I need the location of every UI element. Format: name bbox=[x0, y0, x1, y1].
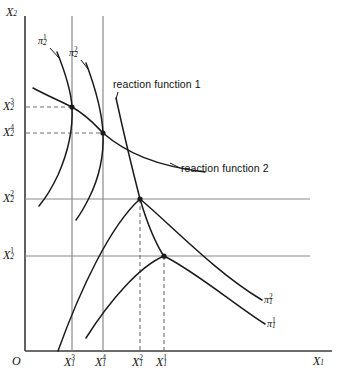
reaction-function-1-label: reaction function 1 bbox=[113, 79, 201, 90]
x-tick-label-x1-2: X21 bbox=[132, 356, 147, 369]
leader-reaction-function-1 bbox=[116, 92, 118, 99]
tangency-point-x2 bbox=[137, 196, 142, 201]
y-tick-label-x2-2: X22 bbox=[3, 192, 18, 205]
tangency-point-x3 bbox=[69, 104, 74, 109]
reaction-function-2-curve bbox=[33, 88, 205, 172]
x-tick-label-x1-4: X41 bbox=[95, 356, 110, 369]
isoprofit-curve-pi-1-1 bbox=[86, 256, 265, 338]
y-axis-label: X2 bbox=[6, 6, 17, 18]
isoprofit-label-pi-1-2: π21 bbox=[264, 295, 275, 306]
isoprofit-curve-pi-2-1 bbox=[39, 52, 72, 206]
y-tick-label-x2-3: X32 bbox=[3, 100, 18, 113]
diagram-svg bbox=[0, 0, 341, 375]
isoprofit-label-pi-2-1: π12 bbox=[38, 36, 49, 47]
x-axis-label: X1 bbox=[313, 355, 324, 367]
y-tick-label-x2-4: X42 bbox=[3, 126, 18, 139]
tangency-point-x1 bbox=[161, 253, 166, 258]
origin-label: O bbox=[12, 355, 21, 367]
isoprofit-label-pi-2-2: π22 bbox=[69, 48, 80, 59]
figure-canvas: X2 X1 O X32 X42 X22 X12 X31 X41 X21 X11 … bbox=[0, 0, 341, 375]
x-tick-label-x1-1: X11 bbox=[156, 356, 171, 369]
y-tick-label-x2-1: X12 bbox=[3, 249, 18, 262]
isoprofit-label-pi-1-1: π11 bbox=[267, 319, 278, 330]
x-tick-label-x1-3: X31 bbox=[64, 356, 79, 369]
tangency-point-x4 bbox=[100, 130, 105, 135]
reaction-function-2-label: reaction function 2 bbox=[181, 163, 269, 174]
isoprofit-curve-pi-1-2 bbox=[58, 199, 262, 351]
isoprofit-curve-pi-2-2 bbox=[76, 63, 103, 220]
